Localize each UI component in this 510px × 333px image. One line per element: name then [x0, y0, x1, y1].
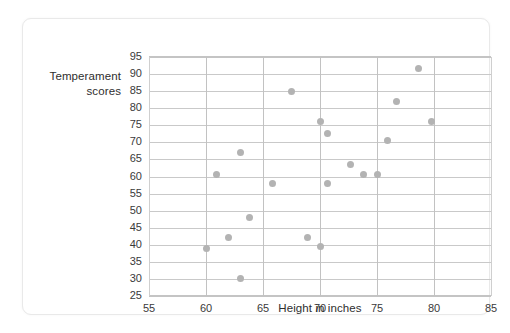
- y-tick-label: 95: [118, 50, 142, 62]
- y-tick-label: 40: [118, 238, 142, 250]
- scatter-point: [225, 234, 232, 241]
- scatter-point: [384, 137, 391, 144]
- y-tick-label: 45: [118, 221, 142, 233]
- chart-card: Temperament scores 253035404550556065707…: [22, 18, 490, 315]
- gridline-vertical: [149, 57, 150, 296]
- scatter-point: [347, 161, 354, 168]
- scatter-point: [324, 180, 331, 187]
- y-tick-label: 50: [118, 204, 142, 216]
- scatter-point: [415, 65, 422, 72]
- y-tick-label: 25: [118, 289, 142, 301]
- gridline-vertical: [263, 57, 264, 296]
- gridline-vertical: [434, 57, 435, 296]
- y-tick-label: 30: [118, 272, 142, 284]
- gridline-vertical: [320, 57, 321, 296]
- y-tick-label: 75: [118, 118, 142, 130]
- scatter-point: [213, 171, 220, 178]
- y-tick-label: 80: [118, 101, 142, 113]
- y-tick-label: 60: [118, 170, 142, 182]
- y-axis-title: Temperament scores: [35, 69, 121, 98]
- y-tick-label: 55: [118, 187, 142, 199]
- scatter-point: [317, 118, 324, 125]
- y-axis-title-line-2: scores: [35, 84, 121, 99]
- y-tick-label: 90: [118, 67, 142, 79]
- gridline-vertical: [206, 57, 207, 296]
- scatter-point: [393, 98, 400, 105]
- scatter-point: [246, 214, 253, 221]
- scatter-point: [324, 130, 331, 137]
- y-tick-label: 35: [118, 255, 142, 267]
- scatter-point: [203, 245, 210, 252]
- scatter-point: [237, 149, 244, 156]
- scatter-point: [317, 243, 324, 250]
- y-tick-label: 85: [118, 84, 142, 96]
- scatter-point: [288, 88, 295, 95]
- gridline-vertical: [491, 57, 492, 296]
- scatter-point: [269, 180, 276, 187]
- y-tick-label: 70: [118, 135, 142, 147]
- scatter-point: [304, 234, 311, 241]
- y-tick-label: 65: [118, 152, 142, 164]
- scatter-point: [237, 275, 244, 282]
- scatter-plot-area: 2530354045505560657075808590955560657075…: [149, 57, 491, 296]
- scatter-point: [374, 171, 381, 178]
- screenshot-root: Temperament scores 253035404550556065707…: [0, 0, 510, 333]
- y-axis-title-line-1: Temperament: [35, 69, 121, 84]
- x-axis-title: Height in inches: [149, 302, 491, 314]
